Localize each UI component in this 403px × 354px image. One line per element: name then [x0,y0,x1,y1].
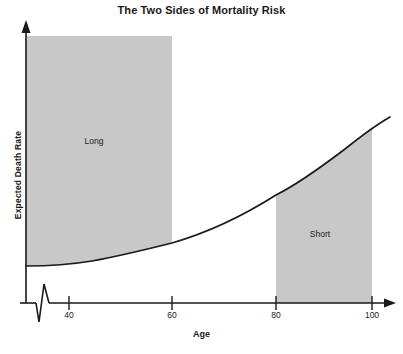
x-tick-label-100: 100 [352,310,392,320]
plot-area [0,0,403,354]
x-axis-label: Age [0,329,403,339]
region-label-long: Long [64,136,124,146]
x-tick-label-40: 40 [49,310,89,320]
axis-break-zigzag-icon [36,284,49,322]
region-label-short: Short [290,229,350,239]
x-tick-label-60: 60 [152,310,192,320]
y-axis-arrow-icon [22,20,31,33]
shaded-region-short [276,127,372,303]
x-tick-label-80: 80 [256,310,296,320]
shaded-region-long [26,36,172,266]
mortality-risk-chart: The Two Sides of Mortality Risk Expected… [0,0,403,354]
x-axis-arrow-icon [384,299,396,308]
